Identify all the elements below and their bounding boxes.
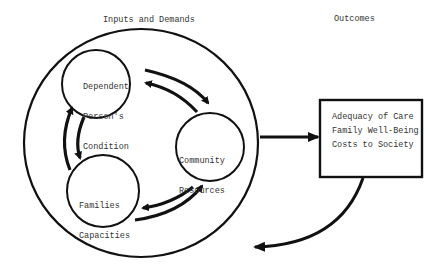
outcomes-header: Outcomes <box>334 14 375 24</box>
dependent-condition-label: Dependent Person's Condition <box>83 62 129 162</box>
community-line2: Resources <box>179 186 225 196</box>
dependent-line2: Person's <box>83 112 129 122</box>
arrow-families-to-dependent <box>64 108 72 170</box>
families-line2: Capacities <box>79 231 130 241</box>
outcome-item: Adequacy of Care <box>332 110 420 124</box>
inputs-demands-header: Inputs and Demands <box>103 15 195 25</box>
families-line1: Families <box>79 201 130 211</box>
outcome-item: Family Well-Being <box>332 124 420 138</box>
community-resources-label: Community Resources <box>179 136 225 206</box>
dependent-line3: Condition <box>83 142 129 152</box>
outcome-item: Costs to Society <box>332 138 420 152</box>
families-capacities-label: Families Capacities <box>79 181 130 251</box>
dependent-line1: Dependent <box>83 82 129 92</box>
feedback-arrow-outcomes-to-inputs <box>255 178 363 247</box>
community-line1: Community <box>179 156 225 166</box>
outcomes-box: Adequacy of Care Family Well-Being Costs… <box>322 102 420 175</box>
